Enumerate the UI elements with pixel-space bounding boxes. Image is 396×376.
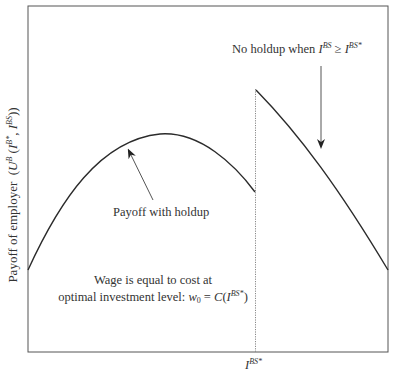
annotation-no-holdup: No holdup when IBS ≥ IBS* bbox=[232, 42, 362, 57]
y-axis-func-sup: B bbox=[5, 157, 14, 162]
y-axis-arg1-sup: B* bbox=[5, 136, 14, 145]
wage-paren-close: ) bbox=[244, 290, 248, 304]
y-axis-label: Payoff of employer (UB (IB*, IBS)) bbox=[5, 107, 21, 282]
arrow-holdup-icon bbox=[130, 153, 153, 200]
curve-payoff-with-holdup bbox=[28, 134, 255, 270]
x-tick-sup: BS* bbox=[249, 357, 262, 366]
y-axis-func: U bbox=[5, 162, 20, 171]
wage-line1: Wage is equal to cost at bbox=[58, 274, 248, 288]
wage-line2-text: optimal investment level: bbox=[58, 290, 188, 304]
no-holdup-i1-sup: BS bbox=[323, 41, 332, 50]
y-axis-arg1: I bbox=[5, 145, 20, 149]
no-holdup-text: No holdup when bbox=[232, 42, 318, 56]
no-holdup-geq: ≥ bbox=[332, 42, 345, 56]
y-axis-arg2-sup: BS bbox=[5, 116, 14, 125]
wage-line2: optimal investment level: w0 = C(IBS*) bbox=[58, 290, 248, 306]
annotation-payoff-with-holdup: Payoff with holdup bbox=[113, 206, 209, 220]
y-axis-label-text: Payoff of employer bbox=[5, 182, 20, 283]
wage-i-sup: BS* bbox=[231, 289, 244, 298]
y-axis-arg2: I bbox=[5, 125, 20, 129]
no-holdup-i2-sup: BS* bbox=[349, 41, 362, 50]
annotation-wage: Wage is equal to cost at optimal investm… bbox=[58, 274, 248, 306]
x-tick-ibs-star: IBS* bbox=[245, 358, 262, 373]
wage-eq: = bbox=[201, 290, 214, 304]
wage-w: w bbox=[188, 290, 196, 304]
curve-no-holdup bbox=[256, 90, 388, 270]
